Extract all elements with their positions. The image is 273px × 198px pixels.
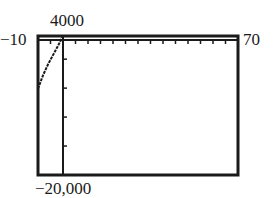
window-frame (38, 36, 238, 175)
axis-ticks (38, 40, 238, 175)
graph-window (0, 0, 273, 198)
